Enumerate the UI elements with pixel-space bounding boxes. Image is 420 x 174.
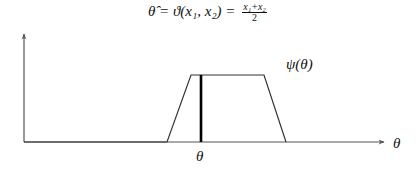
curve-label: ψ(θ): [286, 56, 313, 73]
psi-trapezoid-curve: [24, 75, 286, 142]
x-axis-label: θ: [393, 135, 400, 152]
marker-label: θ: [196, 148, 203, 165]
estimator-formula: θ̂ = ϑ(x₁, x₂) = x₁+x₂2: [148, 2, 267, 23]
formula-fraction: x₁+x₂2: [242, 2, 267, 23]
formula-prefix: θ̂ = ϑ(x₁, x₂) =: [148, 3, 239, 19]
fraction-denominator: 2: [242, 13, 267, 23]
trapezoid-diagram: [0, 0, 420, 174]
